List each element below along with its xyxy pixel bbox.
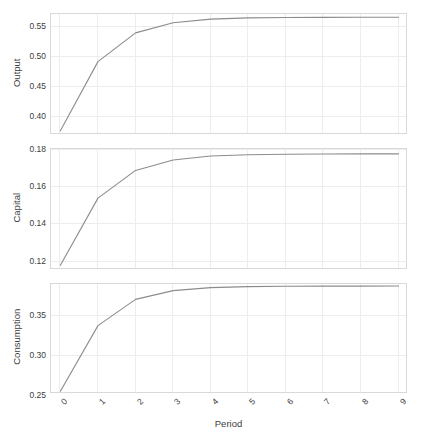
facet-panel-consumption: 0.250.300.35Consumption — [0, 0, 426, 437]
faceted-line-chart: 0.400.450.500.55Output0.120.140.160.18Ca… — [0, 0, 426, 437]
series-line-consumption — [51, 284, 407, 393]
x-axis-title: Period — [50, 419, 407, 429]
y-axis-title-consumption: Consumption — [12, 277, 22, 397]
data-polyline — [60, 286, 398, 391]
plot-area-consumption — [50, 283, 407, 393]
